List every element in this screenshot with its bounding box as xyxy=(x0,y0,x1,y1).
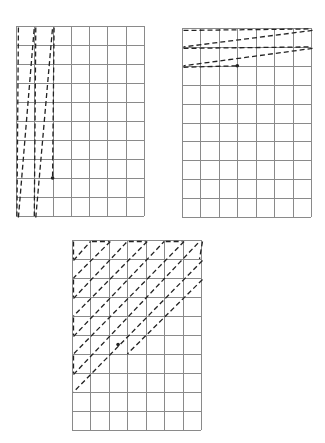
grid-svg xyxy=(72,240,201,430)
diagonal-scan-grid xyxy=(72,240,201,430)
row-scan-grid xyxy=(182,28,311,217)
scan-path xyxy=(17,28,54,218)
grid-svg xyxy=(182,28,311,217)
arrow-head-icon xyxy=(235,64,239,68)
arrow-head-icon xyxy=(51,176,55,180)
arrow-head-icon xyxy=(116,343,120,347)
grid-lines xyxy=(182,28,312,218)
grid-svg xyxy=(16,26,144,216)
column-scan-grid xyxy=(16,26,144,216)
